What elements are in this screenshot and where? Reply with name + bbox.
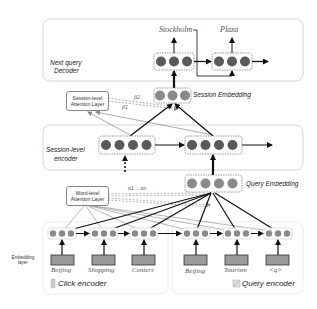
query-word-2: Tourism xyxy=(224,266,247,274)
click-encoder-icon xyxy=(51,279,55,288)
query-word-3: <q> xyxy=(269,266,282,274)
embedding-layer-line2: layer xyxy=(8,260,38,265)
word-attention-layer: Word-level Attention Layer xyxy=(66,186,109,206)
session-attention-layer: Session-level Attention Layer xyxy=(66,91,109,111)
architecture-diagram: Stockholm Plaza Next query Decoder Sessi… xyxy=(0,0,317,309)
session-encoder-title-line2: encoder xyxy=(54,155,78,162)
decoder-title-line1: Next query xyxy=(50,59,81,66)
session-embedding-label: Session Embedding xyxy=(193,91,251,98)
decoder-output-stockholm: Stockholm xyxy=(159,25,192,34)
decoder-output-plaza: Plaza xyxy=(220,25,238,34)
click-word-3: Centers xyxy=(132,266,154,274)
query-word-1: Beijing xyxy=(185,267,205,275)
click-word-2: Shopping xyxy=(88,266,114,274)
alpha-weights-label: α1 ... αn xyxy=(128,185,146,191)
embedding-layer-label: Embedding layer xyxy=(8,255,38,265)
word-attention-line2: Attention Layer xyxy=(71,196,105,202)
session-attention-line2: Attention Layer xyxy=(71,101,105,107)
beta1-label: β1 xyxy=(122,104,128,110)
decoder-title-line2: Decoder xyxy=(54,67,79,74)
query-encoder-label: Query encoder xyxy=(242,279,295,288)
session-encoder-title-line1: Session-level xyxy=(46,146,85,153)
query-embedding-label: Query Embedding xyxy=(246,180,298,187)
click-word-1: Beijing xyxy=(51,266,71,274)
beta2-label: β2 xyxy=(134,94,140,100)
click-encoder-label: Click encoder xyxy=(58,279,106,288)
